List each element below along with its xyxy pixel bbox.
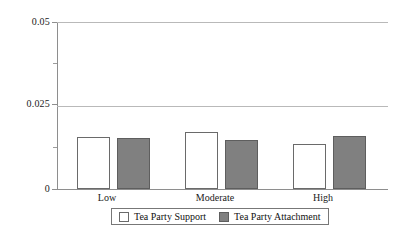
chart-legend: Tea Party Support Tea Party Attachment [111,208,329,225]
legend-swatch-filled-icon [219,212,229,222]
bar-low-support [77,137,110,189]
legend-swatch-open-icon [119,212,129,222]
y-tick-label-0.025: 0.025 [2,99,50,109]
gridline-0.05 [57,22,388,23]
x-axis-line [57,189,388,190]
y-tick-label-0.05: 0.05 [2,17,50,27]
bar-high-attachment [333,136,366,189]
bar-high-support [293,144,326,189]
x-category-label-moderate: Moderate [185,192,245,204]
bar-moderate-attachment [225,140,258,189]
legend-item-tea-party-attachment: Tea Party Attachment [219,211,321,222]
gridline-0.025 [57,106,388,107]
y-axis-labels: 0.05 0.025 0 [0,0,50,243]
y-tick-label-0: 0 [2,184,50,194]
bar-low-attachment [117,138,150,189]
bar-chart: 0.05 0.025 0 Low Moderate High Tea Party… [0,0,400,243]
legend-item-tea-party-support: Tea Party Support [119,211,206,222]
x-category-label-high: High [293,192,353,204]
x-category-label-low: Low [77,192,137,204]
legend-label-attachment: Tea Party Attachment [234,211,321,222]
legend-label-support: Tea Party Support [134,211,206,222]
bar-moderate-support [185,132,218,189]
plot-area [57,22,388,189]
